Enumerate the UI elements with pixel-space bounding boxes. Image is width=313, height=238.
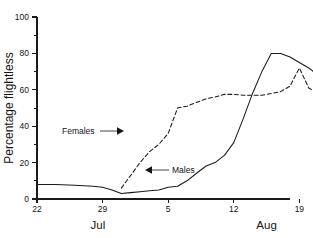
- x-tick-label: 5: [166, 204, 171, 214]
- y-tick-label: 0: [24, 194, 29, 204]
- y-axis-tick-labels: 020406080100: [15, 12, 29, 204]
- y-axis-group: 020406080100 Percentage flightless: [2, 12, 37, 204]
- x-axis-month-labels: JulAug: [91, 219, 277, 231]
- y-tick-label: 60: [20, 85, 30, 95]
- y-tick-label: 80: [20, 48, 30, 58]
- x-tick-label: 22: [32, 204, 42, 214]
- y-tick-label: 40: [20, 121, 30, 131]
- y-tick-label: 100: [15, 12, 29, 22]
- x-axis-major-ticks: [37, 199, 313, 203]
- flightless-percentage-line-chart: 020406080100 Percentage flightless 22295…: [0, 0, 313, 238]
- annotation-males: Males: [145, 165, 195, 175]
- annotation-females: Females: [62, 126, 124, 136]
- y-axis-title: Percentage flightless: [2, 52, 16, 163]
- y-tick-label: 20: [20, 158, 30, 168]
- x-axis-month-label: Aug: [256, 219, 276, 231]
- x-tick-label: 29: [98, 204, 108, 214]
- arrow-left-icon: [145, 166, 152, 173]
- x-axis-group: 22295121927 JulAug: [32, 199, 313, 231]
- annotation-label-females: Females: [62, 126, 95, 136]
- chart-figure: 020406080100 Percentage flightless 22295…: [0, 0, 313, 238]
- x-tick-label: 12: [229, 204, 239, 214]
- x-axis-month-label: Jul: [91, 219, 106, 231]
- x-axis-tick-labels: 22295121927: [32, 204, 313, 214]
- annotation-label-males: Males: [172, 165, 195, 175]
- x-tick-label: 19: [295, 204, 305, 214]
- arrow-right-icon: [117, 127, 124, 134]
